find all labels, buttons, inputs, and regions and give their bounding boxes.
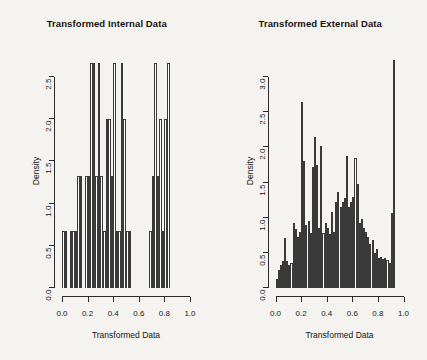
y-axis-tick-label: 1.5: [44, 163, 53, 193]
x-axis-tick: [62, 297, 63, 302]
y-axis-title-external: Density: [245, 141, 255, 201]
histogram-bars-external: [276, 56, 404, 288]
y-axis-tick-label: 0.5: [257, 254, 266, 284]
y-axis-title-internal: Density: [31, 141, 41, 201]
y-axis-tick: [263, 252, 268, 253]
x-axis-tick-label: 1.0: [384, 309, 424, 318]
y-axis-tick-label: 1.5: [257, 184, 266, 214]
x-axis-tick-label: 1.0: [170, 309, 210, 318]
x-axis-tick: [113, 297, 114, 302]
y-axis-tick-label: 1.0: [257, 219, 266, 249]
x-axis-tick: [327, 297, 328, 302]
y-axis-tick: [49, 245, 54, 246]
x-axis-line-external: [276, 296, 404, 297]
histogram-bar: [129, 231, 132, 288]
y-axis-tick: [49, 160, 54, 161]
x-axis-title-external: Transformed Data: [276, 330, 404, 340]
panel-internal: Transformed Internal Data 0.00.51.01.52.…: [0, 0, 214, 360]
y-axis-line-external: [268, 77, 269, 288]
x-axis-tick: [139, 297, 140, 302]
y-axis-tick-label: 0.5: [44, 247, 53, 277]
y-axis-tick-label: 2.0: [44, 121, 53, 151]
histogram-bars-internal: [62, 56, 190, 288]
histogram-bar: [167, 63, 170, 288]
x-axis-tick: [378, 297, 379, 302]
x-axis-tick: [164, 297, 165, 302]
x-axis-tick: [276, 297, 277, 302]
y-axis-tick: [263, 76, 268, 77]
y-axis-tick: [49, 203, 54, 204]
x-axis-tick: [88, 297, 89, 302]
x-axis-tick: [301, 297, 302, 302]
y-axis-tick: [263, 146, 268, 147]
panel-external: Transformed External Data 0.00.51.01.52.…: [214, 0, 427, 360]
y-axis-tick: [49, 287, 54, 288]
histogram-bar: [65, 231, 68, 288]
histogram-bar: [393, 60, 395, 288]
panel-title-internal: Transformed Internal Data: [0, 18, 214, 29]
y-axis-tick-label: 2.5: [257, 114, 266, 144]
y-axis-tick-label: 2.0: [257, 149, 266, 179]
panel-title-external: Transformed External Data: [214, 18, 427, 29]
x-axis-tick: [190, 297, 191, 302]
y-axis-tick: [263, 182, 268, 183]
y-axis-tick-label: 3.0: [257, 79, 266, 109]
histogram-bar: [80, 176, 83, 288]
y-axis-tick: [49, 118, 54, 119]
y-axis-tick: [263, 287, 268, 288]
y-axis-tick-label: 2.5: [44, 79, 53, 109]
y-axis-tick: [263, 217, 268, 218]
x-axis-title-internal: Transformed Data: [62, 330, 190, 340]
plot-area-external: 0.00.51.01.52.02.53.0 0.00.20.40.60.81.0…: [276, 56, 404, 288]
y-axis-tick-label: 1.0: [44, 205, 53, 235]
y-axis-line-internal: [54, 77, 55, 288]
plot-area-internal: 0.00.51.01.52.02.5 0.00.20.40.60.81.0 Tr…: [62, 56, 190, 288]
figure-canvas: Transformed Internal Data 0.00.51.01.52.…: [0, 0, 427, 360]
y-axis-tick: [263, 111, 268, 112]
x-axis-tick: [404, 297, 405, 302]
x-axis-tick: [352, 297, 353, 302]
x-axis-line-internal: [62, 296, 190, 297]
y-axis-tick: [49, 76, 54, 77]
